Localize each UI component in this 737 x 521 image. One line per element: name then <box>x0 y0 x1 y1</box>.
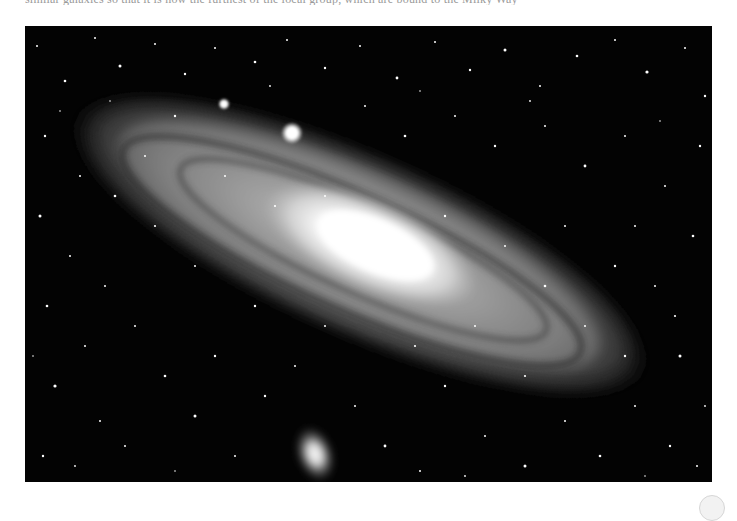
clipped-caption-text: similar galaxies so that it is now the f… <box>25 0 715 5</box>
corner-circle-button[interactable] <box>699 495 725 521</box>
galaxy-photo <box>25 26 712 482</box>
galaxy-image <box>25 26 712 482</box>
